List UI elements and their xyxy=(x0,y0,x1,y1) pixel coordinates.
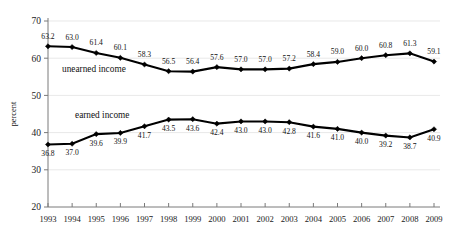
y-tick-label-20: 20 xyxy=(32,202,42,212)
marker-unearned-income-2001 xyxy=(238,67,243,72)
x-tick-label-2001: 2001 xyxy=(232,214,249,224)
y-tick-label-40: 40 xyxy=(32,128,42,138)
point-label-unearned-income-2007: 60.8 xyxy=(379,41,392,50)
point-label-unearned-income-2003: 57.2 xyxy=(283,54,296,63)
y-tick-label-50: 50 xyxy=(32,91,42,101)
point-label-unearned-income-1997: 58.3 xyxy=(138,50,151,59)
marker-earned-income-2005 xyxy=(335,126,340,131)
marker-earned-income-1999 xyxy=(190,117,195,122)
marker-unearned-income-2002 xyxy=(263,67,268,72)
marker-unearned-income-2007 xyxy=(383,53,388,58)
marker-earned-income-1993 xyxy=(45,142,50,147)
point-label-unearned-income-2008: 61.3 xyxy=(403,39,416,48)
x-tick-label-1994: 1994 xyxy=(64,214,82,224)
x-tick-label-1996: 1996 xyxy=(112,214,130,224)
x-tick-label-1993: 1993 xyxy=(39,214,56,224)
x-tick-label-2006: 2006 xyxy=(353,214,371,224)
point-label-earned-income-2002: 43.0 xyxy=(258,126,271,135)
point-label-unearned-income-1994: 63.0 xyxy=(65,33,78,42)
point-label-earned-income-2009: 40.9 xyxy=(427,134,440,143)
marker-earned-income-2001 xyxy=(238,119,243,124)
y-tick-label-30: 30 xyxy=(32,165,42,175)
marker-unearned-income-2003 xyxy=(287,66,292,71)
point-label-unearned-income-1993: 63.2 xyxy=(41,32,54,41)
marker-unearned-income-2000 xyxy=(214,65,219,70)
marker-unearned-income-2004 xyxy=(311,62,316,67)
marker-unearned-income-1996 xyxy=(118,55,123,60)
point-label-earned-income-1995: 39.6 xyxy=(90,139,103,148)
point-label-earned-income-1997: 41.7 xyxy=(138,131,151,140)
marker-earned-income-2009 xyxy=(431,127,436,132)
marker-unearned-income-2006 xyxy=(359,56,364,61)
y-axis-title: percent xyxy=(9,101,18,126)
point-label-earned-income-1993: 36.8 xyxy=(41,149,54,158)
x-tick-label-1995: 1995 xyxy=(88,214,105,224)
point-label-unearned-income-2009: 59.1 xyxy=(427,47,440,56)
x-tick-label-2007: 2007 xyxy=(377,214,395,224)
point-label-earned-income-2006: 40.0 xyxy=(355,137,368,146)
point-label-unearned-income-2005: 59.0 xyxy=(331,47,344,56)
x-tick-label-2005: 2005 xyxy=(329,214,346,224)
marker-earned-income-1996 xyxy=(118,130,123,135)
marker-earned-income-1997 xyxy=(142,124,147,129)
point-label-earned-income-1994: 37.0 xyxy=(65,148,78,157)
marker-earned-income-2002 xyxy=(263,119,268,124)
point-label-earned-income-1996: 39.9 xyxy=(114,137,127,146)
point-label-earned-income-1998: 43.5 xyxy=(162,124,175,133)
x-tick-label-2002: 2002 xyxy=(257,214,274,224)
chart-canvas: 2030405060701993199419951996199719981999… xyxy=(0,0,453,236)
point-label-unearned-income-2004: 58.4 xyxy=(307,50,320,59)
point-label-unearned-income-2006: 60.0 xyxy=(355,44,368,53)
series-annotation-earned-income: earned income xyxy=(75,110,129,120)
point-label-unearned-income-1999: 56.4 xyxy=(186,57,199,66)
point-label-unearned-income-2002: 57.0 xyxy=(258,55,271,64)
marker-earned-income-2004 xyxy=(311,124,316,129)
point-label-earned-income-2004: 41.6 xyxy=(307,131,320,140)
marker-unearned-income-1998 xyxy=(166,69,171,74)
marker-unearned-income-1994 xyxy=(70,44,75,49)
marker-earned-income-2006 xyxy=(359,130,364,135)
marker-earned-income-2003 xyxy=(287,120,292,125)
point-label-unearned-income-1996: 60.1 xyxy=(114,43,127,52)
point-label-earned-income-2008: 38.7 xyxy=(403,142,416,151)
line-chart: 2030405060701993199419951996199719981999… xyxy=(0,0,453,236)
y-tick-label-60: 60 xyxy=(32,54,42,64)
marker-unearned-income-2008 xyxy=(407,51,412,56)
point-label-unearned-income-1995: 61.4 xyxy=(90,38,103,47)
point-label-earned-income-2000: 42.4 xyxy=(210,128,223,137)
marker-earned-income-2008 xyxy=(407,135,412,140)
point-label-unearned-income-2000: 57.6 xyxy=(210,53,223,62)
x-tick-label-1999: 1999 xyxy=(184,214,201,224)
point-label-earned-income-2005: 41.0 xyxy=(331,133,344,142)
marker-unearned-income-2009 xyxy=(431,59,436,64)
marker-earned-income-1998 xyxy=(166,117,171,122)
x-tick-label-2008: 2008 xyxy=(401,214,418,224)
marker-unearned-income-1995 xyxy=(94,50,99,55)
x-tick-label-2000: 2000 xyxy=(208,214,225,224)
marker-unearned-income-1993 xyxy=(45,44,50,49)
point-label-earned-income-1999: 43.6 xyxy=(186,124,199,133)
marker-earned-income-2007 xyxy=(383,133,388,138)
marker-unearned-income-1997 xyxy=(142,62,147,67)
point-label-earned-income-2003: 42.8 xyxy=(283,127,296,136)
x-tick-label-1997: 1997 xyxy=(136,214,154,224)
x-tick-label-2003: 2003 xyxy=(281,214,298,224)
series-annotation-unearned-income: unearned income xyxy=(62,64,126,74)
marker-unearned-income-2005 xyxy=(335,59,340,64)
y-tick-label-70: 70 xyxy=(32,16,42,26)
x-tick-label-2004: 2004 xyxy=(305,214,323,224)
marker-earned-income-2000 xyxy=(214,121,219,126)
point-label-unearned-income-2001: 57.0 xyxy=(234,55,247,64)
point-label-earned-income-2007: 39.2 xyxy=(379,140,392,149)
point-label-unearned-income-1998: 56.5 xyxy=(162,57,175,66)
x-tick-label-1998: 1998 xyxy=(160,214,177,224)
point-label-earned-income-2001: 43.0 xyxy=(234,126,247,135)
marker-unearned-income-1999 xyxy=(190,69,195,74)
x-tick-label-2009: 2009 xyxy=(425,214,442,224)
